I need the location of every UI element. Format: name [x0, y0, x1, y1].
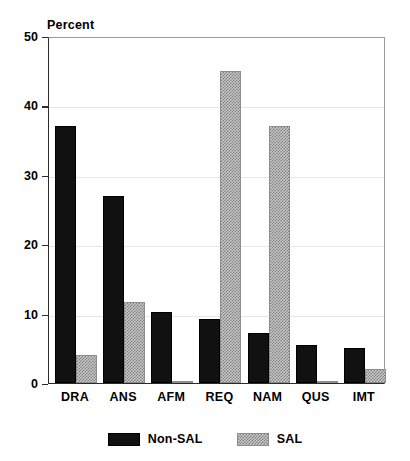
bar-non-sal-req — [199, 319, 220, 383]
y-tick-0 — [42, 384, 48, 385]
y-tick-label-50: 50 — [0, 31, 38, 44]
bar-group-ans — [103, 38, 145, 383]
bar-non-sal-ans — [103, 196, 124, 383]
y-axis-title: Percent — [47, 18, 94, 32]
bar-sal-ans — [124, 302, 145, 383]
x-axis-label-imt: IMT — [329, 390, 399, 404]
chart-legend: Non-SAL SAL — [0, 432, 410, 446]
bar-chart-figure: Percent 50 40 30 20 10 0 DRAANSAFMREQNAM… — [0, 0, 410, 461]
legend-label-non-sal: Non-SAL — [148, 432, 203, 446]
legend-label-sal: SAL — [277, 432, 303, 446]
bar-sal-nam — [269, 126, 290, 383]
y-tick-label-0: 0 — [0, 378, 38, 391]
bar-group-qus — [296, 38, 338, 383]
y-tick-label-20: 20 — [0, 239, 38, 252]
hatched-gray-swatch-icon — [237, 433, 269, 446]
solid-black-swatch-icon — [108, 433, 140, 446]
bar-group-afm — [151, 38, 193, 383]
bar-non-sal-dra — [55, 126, 76, 383]
bar-sal-req — [220, 71, 241, 383]
bar-group-imt — [344, 38, 386, 383]
bar-group-req — [199, 38, 241, 383]
bar-group-nam — [248, 38, 290, 383]
legend-entry-non-sal: Non-SAL — [108, 432, 203, 446]
bar-sal-imt — [365, 369, 386, 383]
bar-sal-qus — [317, 381, 338, 383]
bar-sal-dra — [76, 355, 97, 383]
bar-non-sal-nam — [248, 333, 269, 383]
y-tick-label-10: 10 — [0, 308, 38, 321]
plot-area — [48, 37, 385, 384]
y-tick-label-40: 40 — [0, 100, 38, 113]
bar-non-sal-imt — [344, 348, 365, 383]
y-tick-label-30: 30 — [0, 170, 38, 183]
bar-non-sal-afm — [151, 312, 172, 383]
bar-sal-afm — [172, 381, 193, 383]
legend-entry-sal: SAL — [237, 432, 303, 446]
bar-group-dra — [55, 38, 97, 383]
bar-non-sal-qus — [296, 345, 317, 383]
